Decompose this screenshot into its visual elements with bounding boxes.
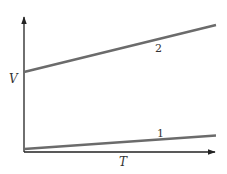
volume-temperature-diagram: 2 1 V T [0, 0, 227, 174]
line-1 [24, 136, 216, 150]
line-2 [24, 25, 216, 72]
x-axis-label: T [119, 155, 128, 169]
line-1-label: 1 [157, 127, 164, 140]
line-2-label: 2 [155, 42, 162, 55]
y-axis-label: V [9, 72, 19, 86]
